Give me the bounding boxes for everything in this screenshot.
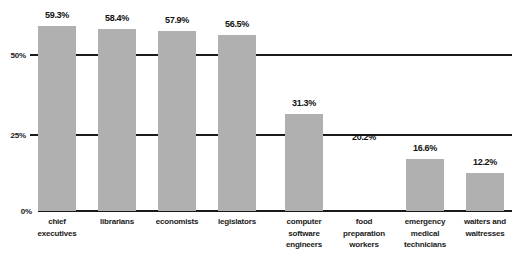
category-line: emergency bbox=[393, 216, 457, 228]
value-label-economists: 57.9% bbox=[151, 15, 203, 25]
category-line: waitresses bbox=[453, 228, 517, 240]
y-tick-label-25: 25% bbox=[11, 131, 26, 140]
category-line: executives bbox=[25, 228, 89, 240]
y-tick-mark-25 bbox=[30, 134, 38, 136]
value-label-legislators: 56.5% bbox=[211, 19, 263, 29]
category-label-food-preparation-workers: food preparation workers bbox=[332, 216, 396, 251]
y-tick-label-0: 0% bbox=[21, 207, 32, 216]
category-label-chief-executives: chief executives bbox=[25, 216, 89, 239]
category-label-emergency-medical-technicians: emergency medical technicians bbox=[393, 216, 457, 251]
category-label-economists: economists bbox=[145, 216, 209, 228]
category-label-waiters-and-waitresses: waiters and waitresses bbox=[453, 216, 517, 239]
category-line: workers bbox=[332, 239, 396, 251]
category-line: food bbox=[332, 216, 396, 228]
category-line: legislators bbox=[205, 216, 269, 228]
category-line: preparation bbox=[332, 228, 396, 240]
value-label-chief-executives: 59.3% bbox=[31, 10, 83, 20]
plot-area: 50% 25% 0% 59.3% 58.4% 57.9% 56.5% 31.3%… bbox=[0, 0, 524, 263]
category-line: librarians bbox=[85, 216, 149, 228]
y-tick-label-50: 50% bbox=[11, 51, 26, 60]
category-line: medical bbox=[393, 228, 457, 240]
value-label-waiters-and-waitresses: 12.2% bbox=[459, 157, 511, 167]
bar-chart: 50% 25% 0% 59.3% 58.4% 57.9% 56.5% 31.3%… bbox=[0, 0, 524, 263]
category-line: chief bbox=[25, 216, 89, 228]
bar-economists bbox=[158, 31, 196, 211]
value-label-librarians: 58.4% bbox=[91, 13, 143, 23]
category-line: computer bbox=[272, 216, 336, 228]
category-line: waiters and bbox=[453, 216, 517, 228]
category-line: engineers bbox=[272, 239, 336, 251]
category-line: economists bbox=[145, 216, 209, 228]
bar-waiters-and-waitresses bbox=[466, 173, 504, 211]
y-tick-mark-50 bbox=[30, 54, 38, 56]
category-line: technicians bbox=[393, 239, 457, 251]
value-label-emergency-medical-technicians: 16.6% bbox=[399, 143, 451, 153]
category-label-legislators: legislators bbox=[205, 216, 269, 228]
value-label-food-preparation-workers: 20.2% bbox=[338, 132, 390, 142]
bar-chief-executives bbox=[38, 26, 76, 211]
category-line: software bbox=[272, 228, 336, 240]
category-label-computer-software-engineers: computer software engineers bbox=[272, 216, 336, 251]
bar-librarians bbox=[98, 29, 136, 211]
bar-legislators bbox=[218, 35, 256, 211]
value-label-computer-software-engineers: 31.3% bbox=[278, 98, 330, 108]
bar-emergency-medical-technicians bbox=[406, 159, 444, 211]
bar-computer-software-engineers bbox=[285, 114, 323, 211]
category-label-librarians: librarians bbox=[85, 216, 149, 228]
